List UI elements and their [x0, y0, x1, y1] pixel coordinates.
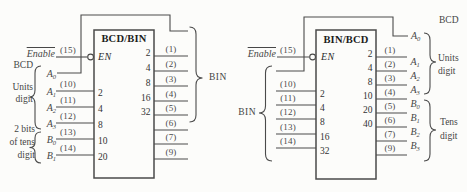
right-output-weight-8: 8	[368, 78, 373, 88]
left-output-weight-2: 2	[146, 49, 151, 59]
left-signal-b1: B1	[47, 151, 56, 161]
left-input-pin-11: (11)	[60, 96, 75, 105]
signal-sub: 0	[53, 73, 56, 80]
right-output-pin-6: (6)	[384, 116, 395, 125]
right-output-pin-3: (3)	[384, 74, 395, 83]
right-bcd-caption: BCD	[439, 16, 459, 26]
left-output-weight-4: 4	[146, 64, 151, 74]
signal-sub: 3	[417, 145, 420, 152]
left-tens-caption-line1: 2 bits	[14, 125, 35, 135]
right-signal-b3: B3	[411, 141, 420, 151]
right-output-weight-2: 2	[368, 50, 373, 60]
left-output-pin-3: (3)	[165, 75, 176, 84]
right-enable-label: Enable	[248, 49, 276, 59]
left-output-pin-5: (5)	[165, 104, 176, 113]
left-tens-caption-line3: digit	[18, 151, 35, 161]
left-input-pin-12: (12)	[60, 112, 76, 121]
left-input-weight-2: 2	[98, 89, 103, 99]
right-output-pin-4: (4)	[384, 88, 395, 97]
right-ic-title: BIN/BCD	[323, 35, 368, 46]
left-input-weight-4: 4	[98, 105, 103, 115]
right-output-pin-7: (7)	[384, 130, 395, 139]
left-units-caption-line1: BCD	[13, 61, 33, 71]
bcd-bin-converter-figure: BCD/BIN EN Enable (15) BCD Units digit 2…	[0, 0, 467, 192]
left-output-pin-1: (1)	[165, 45, 176, 54]
signal-sub: 1	[417, 117, 420, 124]
left-output-pin-4: (4)	[165, 90, 176, 99]
right-enable-pin-number: (15)	[280, 46, 296, 55]
right-en-port-label: EN	[321, 52, 335, 62]
right-input-pin-14: (14)	[280, 137, 296, 146]
left-output-weight-32: 32	[141, 108, 151, 118]
signal-sub: 1	[53, 155, 56, 162]
right-input-pin-12: (12)	[280, 108, 296, 117]
left-enable-pin-number: (15)	[60, 46, 76, 55]
signal-sub: 0	[53, 139, 56, 146]
left-signal-a0: A0	[47, 69, 56, 79]
right-output-pin-2: (2)	[384, 60, 395, 69]
right-units-caption-line2: digit	[438, 67, 455, 77]
right-input-weight-16: 16	[320, 133, 330, 143]
left-units-caption-line3: digit	[16, 95, 33, 105]
signal-sub: 2	[417, 131, 420, 138]
left-bin-brace	[190, 27, 203, 122]
left-input-pin-13: (13)	[60, 128, 76, 137]
right-signal-a0: A0	[411, 31, 420, 41]
signal-sub: 0	[417, 35, 420, 42]
signal-sub: 3	[53, 123, 56, 130]
signal-sub: 1	[417, 61, 420, 68]
right-signal-a3: A3	[411, 85, 420, 95]
right-signal-a1: A1	[411, 57, 420, 67]
left-signal-a2: A2	[47, 103, 56, 113]
right-signal-b1: B1	[411, 113, 420, 123]
right-negation-bubble-icon	[310, 54, 316, 60]
right-signal-b0: B0	[411, 99, 420, 109]
left-bin-group-label: BIN	[209, 73, 227, 83]
right-signal-b2: B2	[411, 127, 420, 137]
left-output-weight-8: 8	[146, 79, 151, 89]
right-output-pin-1: (1)	[384, 46, 395, 55]
right-output-weight-20: 20	[363, 106, 373, 116]
signal-sub: 0	[417, 103, 420, 110]
left-units-caption-line2: Units	[12, 83, 33, 93]
left-en-port-label: EN	[98, 52, 112, 62]
right-output-pin-9: (9)	[384, 144, 395, 153]
right-input-pin-11: (11)	[280, 94, 295, 103]
left-ic-title: BCD/BIN	[101, 34, 146, 45]
left-tens-caption-line2: of tens	[9, 138, 35, 148]
right-bin-group-label: BIN	[238, 108, 256, 118]
left-signal-a1: A1	[47, 87, 56, 97]
left-output-pin-7: (7)	[165, 133, 176, 142]
left-input-weight-8: 8	[98, 121, 103, 131]
left-input-weight-20: 20	[98, 153, 108, 163]
left-signal-a3: A3	[47, 119, 56, 129]
signal-sub: 2	[417, 75, 420, 82]
right-output-weight-10: 10	[363, 92, 373, 102]
left-output-weight-16: 16	[141, 94, 151, 104]
right-output-pin-5: (5)	[384, 102, 395, 111]
right-input-weight-2: 2	[320, 90, 325, 100]
right-input-pin-13: (13)	[280, 123, 296, 132]
right-input-weight-8: 8	[320, 118, 325, 128]
left-output-pin-6: (6)	[165, 119, 176, 128]
left-output-pin-2: (2)	[165, 60, 176, 69]
right-tens-caption-line2: digit	[440, 132, 457, 142]
left-input-weight-10: 10	[98, 137, 108, 147]
left-output-pin-9: (9)	[165, 148, 176, 157]
right-signal-a2: A2	[411, 71, 420, 81]
right-input-weight-4: 4	[320, 104, 325, 114]
left-enable-label: Enable	[27, 49, 55, 59]
signal-sub: 1	[53, 91, 56, 98]
right-bin-brace	[259, 66, 272, 161]
right-input-weight-32: 32	[320, 147, 330, 157]
signal-sub: 2	[53, 107, 56, 114]
right-input-pin-10: (10)	[280, 80, 296, 89]
right-tens-caption-line1: Tens	[440, 118, 458, 128]
left-negation-bubble-icon	[88, 54, 94, 60]
right-tens-brace	[424, 100, 436, 161]
left-input-pin-14: (14)	[60, 144, 76, 153]
left-input-pin-10: (10)	[60, 80, 76, 89]
right-units-caption-line1: Units	[438, 54, 459, 64]
right-output-weight-40: 40	[363, 120, 373, 130]
left-signal-b0: B0	[47, 135, 56, 145]
